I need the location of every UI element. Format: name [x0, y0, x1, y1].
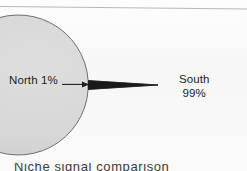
pie-label-south-name: South	[179, 73, 210, 85]
figure-canvas: North 1% South 99% Niche signal comparis…	[0, 0, 247, 171]
pie-label-north: North 1%	[9, 74, 58, 87]
caption-text: Niche signal comparison	[14, 163, 234, 171]
clipped-caption: Niche signal comparison	[14, 163, 234, 171]
pie-label-south: South 99%	[179, 72, 210, 100]
pie-chart: North 1% South 99%	[0, 0, 247, 171]
pie-label-south-value: 99%	[179, 86, 210, 100]
pie-slice-north	[88, 81, 158, 90]
